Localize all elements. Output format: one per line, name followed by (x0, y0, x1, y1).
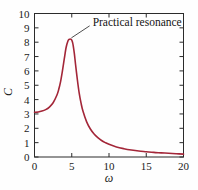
annotation-label-practical-resonance: Practical resonance (93, 16, 182, 28)
y-tick-label-10: 10 (19, 8, 31, 20)
y-tick-label-1: 1 (24, 137, 30, 149)
resonance-chart-figure: 012345678910 05101520 Practical resonanc… (0, 0, 198, 190)
x-tick-label-5: 5 (69, 160, 75, 172)
y-tick-label-3: 3 (24, 108, 30, 120)
y-tick-label-2: 2 (24, 122, 30, 134)
x-axis-title: ω (105, 171, 113, 185)
x-tick-label-20: 20 (178, 160, 190, 172)
y-tick-label-5: 5 (24, 79, 30, 91)
y-tick-label-4: 4 (24, 94, 30, 106)
x-tick-label-15: 15 (141, 160, 153, 172)
y-tick-label-6: 6 (24, 65, 30, 77)
chart-canvas: 012345678910 05101520 Practical resonanc… (0, 0, 198, 190)
chart-background (0, 0, 198, 190)
y-tick-label-9: 9 (24, 22, 30, 34)
y-tick-label-8: 8 (24, 36, 30, 48)
y-tick-label-7: 7 (24, 51, 30, 63)
x-tick-label-0: 0 (32, 160, 38, 172)
y-axis-title: C (1, 87, 15, 96)
y-tick-label-0: 0 (24, 151, 30, 163)
